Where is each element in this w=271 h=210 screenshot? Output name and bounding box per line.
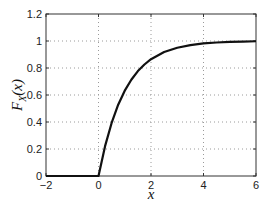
y-tick-label: 0 (36, 170, 42, 182)
x-axis-label: x (147, 186, 155, 202)
x-tick-label: 4 (200, 179, 206, 191)
cdf-curve (46, 41, 256, 176)
y-label-arg: (x) (9, 79, 26, 96)
cdf-chart: −20246 00.20.40.60.811.2 x FX(x) (0, 0, 271, 210)
x-tick-label: 0 (95, 179, 101, 191)
y-axis-label: FX(x) (9, 79, 28, 112)
y-tick-label: 1.2 (27, 8, 42, 20)
grid-lines (46, 14, 256, 176)
y-tick-label: 1 (36, 35, 42, 47)
y-tick-label: 0.8 (27, 62, 42, 74)
x-tick-label: 6 (253, 179, 259, 191)
y-tick-label: 0.2 (27, 143, 42, 155)
y-axis-ticks: 00.20.40.60.811.2 (27, 8, 256, 182)
y-tick-label: 0.6 (27, 89, 42, 101)
svg-text:FX(x): FX(x) (9, 79, 28, 112)
y-tick-label: 0.4 (27, 116, 42, 128)
